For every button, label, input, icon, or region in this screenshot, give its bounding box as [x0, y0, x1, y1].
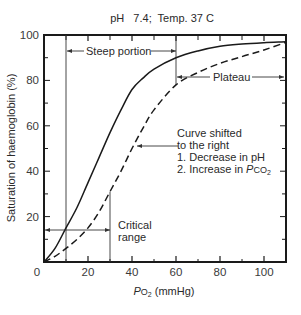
critical-range-label-1: Critical [118, 219, 152, 231]
critical-range-annotation: Critical range [45, 219, 152, 243]
arrow-left-icon [45, 228, 50, 232]
y-tick-label: 60 [26, 120, 39, 132]
x-axis-label: PO2 (mmHg) [133, 285, 194, 298]
arrow-left-icon [67, 49, 72, 53]
x-tick-label: 80 [214, 266, 227, 278]
shift-label-3: 1. Decrease in pH [177, 151, 265, 163]
arrow-left-icon [137, 144, 142, 148]
plot-frame [44, 35, 286, 262]
steep-portion-label: Steep portion [86, 45, 151, 57]
arrow-right-icon [279, 75, 284, 79]
oxygen-dissociation-chart: pH 7.4; Temp. 37 C 020406080100204060801… [0, 0, 301, 315]
steep-portion-annotation: Steep portion [67, 45, 176, 57]
chart-title: pH 7.4; Temp. 37 C [110, 12, 214, 24]
shift-label-4: 2. Increase in PCO2 [177, 163, 271, 176]
y-tick-label: 100 [20, 29, 39, 41]
x-tick-label: 20 [82, 266, 95, 278]
shift-label-2: to the right [177, 139, 229, 151]
y-tick-label: 40 [26, 165, 39, 177]
arrow-left-icon [177, 75, 182, 79]
critical-range-label-2: range [118, 231, 146, 243]
plateau-annotation: Plateau [177, 71, 284, 83]
shift-label-1: Curve shifted [177, 127, 242, 139]
x-tick-label: 60 [170, 266, 183, 278]
arrow-right-icon [105, 228, 110, 232]
x-tick-label: 100 [254, 266, 273, 278]
y-axis-label: Saturation of haemoglobin (%) [5, 74, 17, 223]
arrow-right-icon [171, 49, 176, 53]
axis-ticks [44, 35, 286, 262]
curve-shifted-annotation: Curve shifted to the right 1. Decrease i… [137, 127, 271, 176]
y-tick-label: 80 [26, 74, 39, 86]
x-tick-label: 0 [34, 266, 40, 278]
x-tick-label: 40 [126, 266, 139, 278]
plateau-label: Plateau [213, 71, 250, 83]
y-tick-label: 20 [26, 211, 39, 223]
